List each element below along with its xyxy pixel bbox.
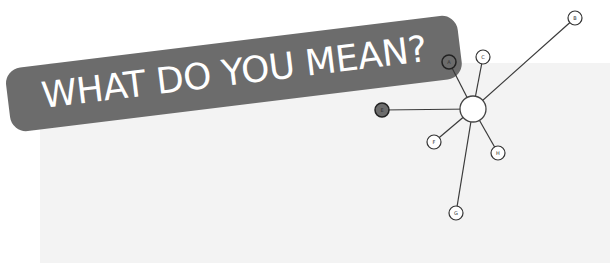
node-H-label: H — [496, 150, 500, 156]
edge-hub-E — [382, 109, 473, 110]
hub-node — [460, 96, 486, 122]
node-E-label: E — [380, 107, 383, 113]
node-G: G — [449, 206, 463, 220]
node-G-label: G — [454, 210, 458, 216]
node-E: E — [375, 103, 389, 117]
node-H: H — [491, 146, 505, 160]
node-B: B — [568, 11, 582, 25]
node-C-label: C — [481, 54, 485, 60]
node-C: C — [476, 50, 490, 64]
node-A-label: A — [447, 59, 451, 65]
edge-hub-G — [456, 109, 473, 213]
node-B-label: B — [573, 15, 577, 21]
node-F-label: F — [433, 139, 436, 145]
node-A: A — [442, 55, 456, 69]
node-F: F — [427, 135, 441, 149]
edge-hub-B — [473, 18, 575, 109]
